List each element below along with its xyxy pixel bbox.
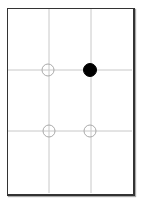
thirds-grid	[0, 0, 142, 203]
intersection-point-top-right	[84, 64, 97, 77]
